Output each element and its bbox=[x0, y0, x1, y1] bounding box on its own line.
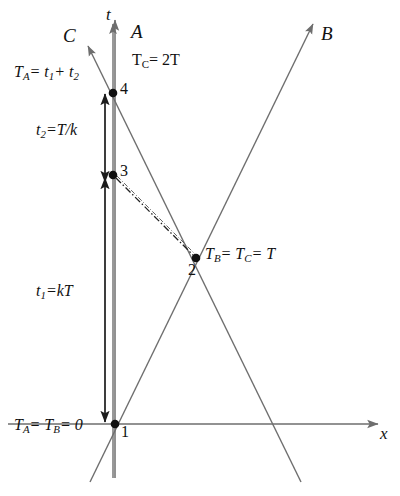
annotation-t2-value: t2=T/k bbox=[36, 122, 77, 140]
worldline-A-label: A bbox=[131, 22, 143, 41]
spacetime-diagram-canvas: t x A B C 1 2 3 4 TA= t1+ t2 TC= 2T t2=T… bbox=[0, 0, 400, 496]
event-point-3 bbox=[109, 171, 118, 180]
TA-equals-t: = t bbox=[30, 63, 49, 80]
zero-TA-subscript: A bbox=[23, 423, 30, 435]
event-point-4 bbox=[109, 89, 118, 98]
x-axis-label: x bbox=[380, 425, 388, 442]
zero-value: = 0 bbox=[60, 416, 83, 433]
TA-symbol: T bbox=[14, 63, 23, 80]
annotation-origin-zero: TA= TB= 0 bbox=[14, 417, 83, 435]
TA-plus-t: + t bbox=[54, 63, 73, 80]
event-label-4: 4 bbox=[120, 81, 128, 97]
TC-value: = 2T bbox=[149, 51, 180, 68]
TC-subscript: C bbox=[142, 58, 149, 70]
TA-sub-2: 2 bbox=[74, 70, 79, 82]
zero-TB-subscript: B bbox=[53, 423, 60, 435]
zero-equals-T: = T bbox=[30, 416, 54, 433]
signal-line-3-to-2-shadow bbox=[117, 176, 196, 255]
worldline-B-label: B bbox=[321, 24, 333, 43]
worldline-C-label: C bbox=[63, 26, 76, 45]
zero-TA-symbol: T bbox=[14, 416, 23, 433]
TB-equals-T: = T bbox=[221, 245, 245, 262]
t1-value: =kT bbox=[46, 282, 73, 299]
TB-value: = T bbox=[252, 245, 276, 262]
signal-line-3-to-2 bbox=[116, 178, 194, 256]
t2-value: =T/k bbox=[46, 121, 77, 138]
annotation-t1-value: t1=kT bbox=[36, 283, 73, 301]
event-point-1 bbox=[111, 420, 120, 429]
TB-subscript: B bbox=[214, 252, 221, 264]
event-label-3: 3 bbox=[120, 163, 128, 179]
TC-symbol: T bbox=[132, 51, 142, 68]
event-label-1: 1 bbox=[121, 424, 129, 440]
annotation-TB-equals-TC: TB= TC= T bbox=[205, 246, 275, 264]
event-label-2: 2 bbox=[188, 262, 196, 278]
TB-subscript-C: C bbox=[244, 252, 251, 264]
annotation-TC-value: TC= 2T bbox=[132, 52, 180, 70]
t-axis-label: t bbox=[106, 6, 111, 23]
annotation-TA-total: TA= t1+ t2 bbox=[14, 64, 79, 82]
TA-subscript: A bbox=[23, 70, 30, 82]
TB-symbol: T bbox=[205, 245, 214, 262]
